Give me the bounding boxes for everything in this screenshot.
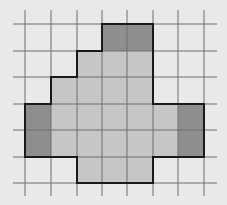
grid-cell-light bbox=[153, 130, 178, 157]
grid-cell-dark bbox=[25, 104, 51, 130]
grid-cell-light bbox=[77, 104, 102, 130]
grid-cell-light bbox=[51, 77, 77, 104]
grid-cell-light bbox=[102, 157, 127, 183]
grid-cell-light bbox=[102, 77, 127, 104]
grid-cell-light bbox=[77, 157, 102, 183]
grid-cell-dark bbox=[178, 104, 204, 130]
grid-cell-light bbox=[153, 104, 178, 130]
grid-cell-light bbox=[77, 130, 102, 157]
grid-cell-light bbox=[51, 104, 77, 130]
grid-cell-light bbox=[77, 77, 102, 104]
grid-cell-light bbox=[127, 104, 153, 130]
grid-cell-dark bbox=[178, 130, 204, 157]
grid-cell-dark bbox=[102, 24, 127, 51]
grid-cell-light bbox=[127, 77, 153, 104]
grid-cell-light bbox=[127, 157, 153, 183]
grid-cell-light bbox=[127, 130, 153, 157]
grid-cell-dark bbox=[25, 130, 51, 157]
grid-cell-dark bbox=[127, 24, 153, 51]
grid-cell-light bbox=[51, 130, 77, 157]
grid-cell-light bbox=[102, 130, 127, 157]
grid-shape-diagram bbox=[0, 0, 227, 205]
grid-cell-light bbox=[77, 51, 102, 77]
grid-cell-light bbox=[102, 104, 127, 130]
grid-cell-light bbox=[127, 51, 153, 77]
grid-cell-light bbox=[102, 51, 127, 77]
